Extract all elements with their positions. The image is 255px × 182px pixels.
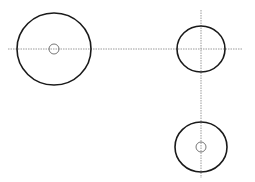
diagram-canvas — [0, 0, 255, 182]
bottom-right-circle — [175, 122, 227, 172]
diagram-svg — [0, 0, 255, 182]
